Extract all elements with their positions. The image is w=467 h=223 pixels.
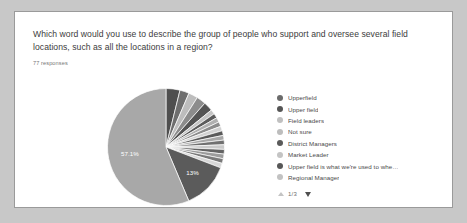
triangle-down-icon[interactable] [305, 192, 311, 197]
pie-slice-group [108, 89, 225, 206]
legend-item-label: Market Leader [288, 150, 329, 159]
legend-item[interactable]: District Managers [277, 138, 449, 149]
legend-color-dot [277, 117, 283, 123]
legend-item-label: Upper field [288, 105, 318, 114]
legend-item[interactable]: Upperfield [277, 92, 449, 103]
legend-item[interactable]: Market Leader [277, 149, 449, 160]
legend-item-label: Upperfield [288, 93, 317, 102]
chart-legend: UpperfieldUpper fieldField leadersNot su… [277, 92, 449, 197]
legend-item[interactable]: Field leaders [277, 115, 449, 126]
pie-slice-label: 13% [186, 169, 199, 176]
legend-item-label: Not sure [288, 127, 312, 136]
triangle-up-icon[interactable] [278, 192, 284, 196]
chart-area: 13%57.1% UpperfieldUpper fieldField lead… [15, 82, 452, 207]
legend-item[interactable]: Not sure [277, 126, 449, 137]
legend-color-dot [277, 95, 283, 101]
legend-color-dot [277, 174, 283, 180]
legend-item-label: Upper field is what we're used to whe… [288, 162, 398, 171]
legend-pagination[interactable]: 1/3 [277, 191, 449, 197]
legend-item-label: Field leaders [288, 116, 324, 125]
legend-page-indicator: 1/3 [288, 191, 297, 197]
legend-item-label: Regional Manager [288, 173, 339, 182]
legend-item[interactable]: Regional Manager [277, 172, 449, 183]
question-title: Which word would you use to describe the… [33, 28, 433, 54]
legend-color-dot [277, 152, 283, 158]
survey-response-card: Which word would you use to describe the… [14, 11, 453, 208]
legend-item[interactable]: Upper field is what we're used to whe… [277, 160, 449, 171]
pie-chart[interactable]: 13%57.1% [107, 88, 225, 206]
legend-item-label: District Managers [288, 139, 337, 148]
pie-chart-svg: 13%57.1% [107, 88, 225, 206]
legend-color-dot [277, 140, 283, 146]
legend-item-list: UpperfieldUpper fieldField leadersNot su… [277, 92, 449, 183]
pie-slice-label: 57.1% [121, 150, 139, 157]
legend-item[interactable]: Upper field [277, 103, 449, 114]
legend-color-dot [277, 129, 283, 135]
question-header: Which word would you use to describe the… [33, 28, 433, 68]
response-count: 77 responses [33, 59, 433, 68]
screenshot-root: Which word would you use to describe the… [0, 0, 467, 223]
legend-color-dot [277, 163, 283, 169]
legend-color-dot [277, 106, 283, 112]
